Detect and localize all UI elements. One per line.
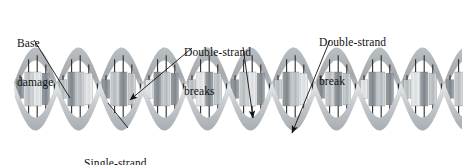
nucleotide-base-block	[283, 72, 291, 106]
nucleotide-base-block	[119, 72, 127, 106]
annotation-label-double-strand-break: Double-strand break	[319, 10, 386, 114]
nucleotide-base-block	[412, 72, 420, 106]
nucleotide-base-block	[300, 73, 308, 105]
nucleotide-base-block	[386, 73, 394, 105]
nucleotide-base-block	[76, 72, 84, 106]
nucleotide-base-block	[85, 73, 93, 105]
nucleotide-base-block	[455, 72, 463, 106]
figure-canvas: Base damage Double-strand breaks Double-…	[0, 0, 468, 165]
nucleotide-base-block	[257, 73, 265, 105]
label-line-2: damage	[17, 76, 53, 89]
annotation-label-single-strand-break: Single-strand break	[84, 131, 147, 165]
nucleotide-base-block	[68, 72, 76, 106]
nucleotide-base-block	[429, 73, 437, 105]
label-line-1: Single-strand	[84, 157, 147, 165]
annotation-label-double-strand-breaks: Double-strand breaks	[184, 20, 251, 124]
nucleotide-base-block	[162, 72, 170, 106]
label-line-2: breaks	[184, 85, 251, 98]
label-line-1: Base	[17, 37, 53, 50]
nucleotide-base-block	[291, 72, 299, 106]
label-line-1: Double-strand	[184, 46, 251, 59]
nucleotide-base-block	[111, 72, 119, 106]
nucleotide-base-block	[128, 73, 136, 105]
label-line-2: break	[319, 75, 386, 88]
nucleotide-base-block	[420, 72, 428, 106]
nucleotide-base-block	[171, 73, 179, 105]
annotation-label-base-damage: Base damage	[17, 11, 53, 115]
label-line-1: Double-strand	[319, 36, 386, 49]
